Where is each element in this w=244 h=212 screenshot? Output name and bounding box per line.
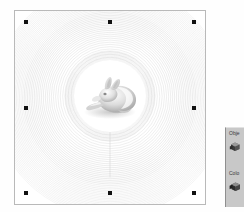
object-button[interactable] xyxy=(229,140,242,153)
resize-handle-top-left[interactable] xyxy=(24,20,28,24)
resize-handle-top-right[interactable] xyxy=(192,20,196,24)
resize-handle-middle-right[interactable] xyxy=(192,106,196,110)
resize-handle-bottom-right[interactable] xyxy=(192,191,196,195)
resize-handle-top-center[interactable] xyxy=(108,20,112,24)
resize-handle-middle-left[interactable] xyxy=(24,106,28,110)
tool-group-object: Obje xyxy=(226,128,244,153)
viewport-content xyxy=(15,11,205,204)
resize-handle-bottom-center[interactable] xyxy=(108,191,112,195)
color-button[interactable] xyxy=(229,180,242,193)
bunny-mesh-icon xyxy=(74,60,146,132)
3d-model-viewport[interactable] xyxy=(14,10,206,205)
application-root: Obje Colo xyxy=(0,0,244,212)
tool-group-color: Colo xyxy=(226,168,244,193)
resize-handle-bottom-left[interactable] xyxy=(24,191,28,195)
model-disc xyxy=(74,60,146,132)
tool-group-object-label: Obje xyxy=(226,128,244,137)
cube-icon xyxy=(229,180,242,193)
tool-panel[interactable]: Obje Colo xyxy=(225,127,244,207)
cube-icon xyxy=(229,140,242,153)
tool-group-color-label: Colo xyxy=(226,168,244,177)
